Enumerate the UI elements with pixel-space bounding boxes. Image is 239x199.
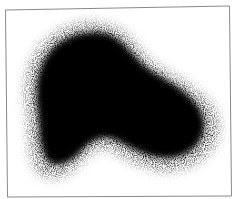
scan-image [0, 0, 239, 199]
